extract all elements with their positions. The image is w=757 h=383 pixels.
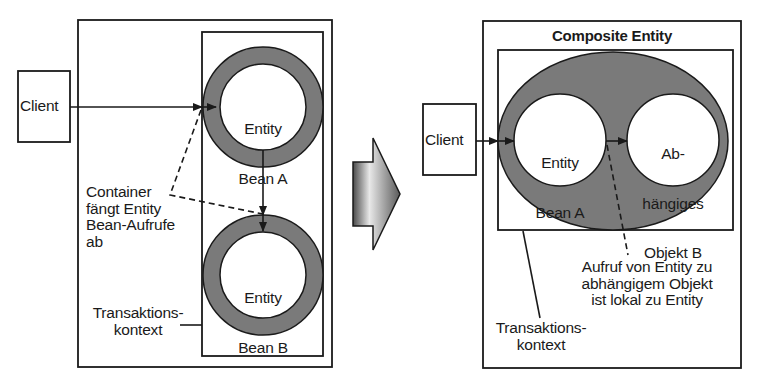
right-bean-a-line1: Entity [520,155,600,172]
left-bean-b-label: Entity Bean B [223,257,303,383]
right-bean-a-line2: Bean A [520,205,600,222]
left-client-label: Client [20,98,58,115]
dependent-object-line1: Ab- [628,146,718,163]
left-bean-a-line2: Bean A [223,171,303,188]
left-transaction-label: Transaktions- kontext [84,305,192,338]
right-client-label: Client [425,132,463,149]
right-transaction-label: Transaktions- kontext [487,320,595,353]
container-intercept-note: Container fängt Entity Bean-Aufrufe ab [86,184,175,250]
left-bean-a-label: Entity Bean A [223,88,303,220]
left-bean-b-line2: Bean B [223,340,303,357]
left-bean-b-line1: Entity [223,290,303,307]
right-block-arrow-icon [353,138,400,250]
dependent-object-line2: hängiges [628,196,718,213]
composite-entity-title: Composite Entity [483,28,741,45]
composite-entity-diagram: Client Entity Bean A Entity Bean B Conta… [0,0,757,383]
right-bean-a-label: Entity Bean A [520,122,600,254]
left-bean-a-line1: Entity [223,121,303,138]
local-call-note: Aufruf von Entity zu abhängigem Objekt i… [562,259,732,309]
